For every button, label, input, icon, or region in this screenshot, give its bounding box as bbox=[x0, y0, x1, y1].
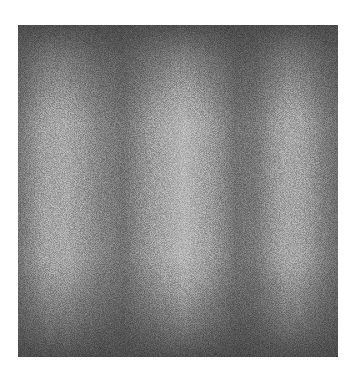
noise-overlay bbox=[18, 25, 338, 357]
noise-texture-image bbox=[18, 25, 338, 357]
